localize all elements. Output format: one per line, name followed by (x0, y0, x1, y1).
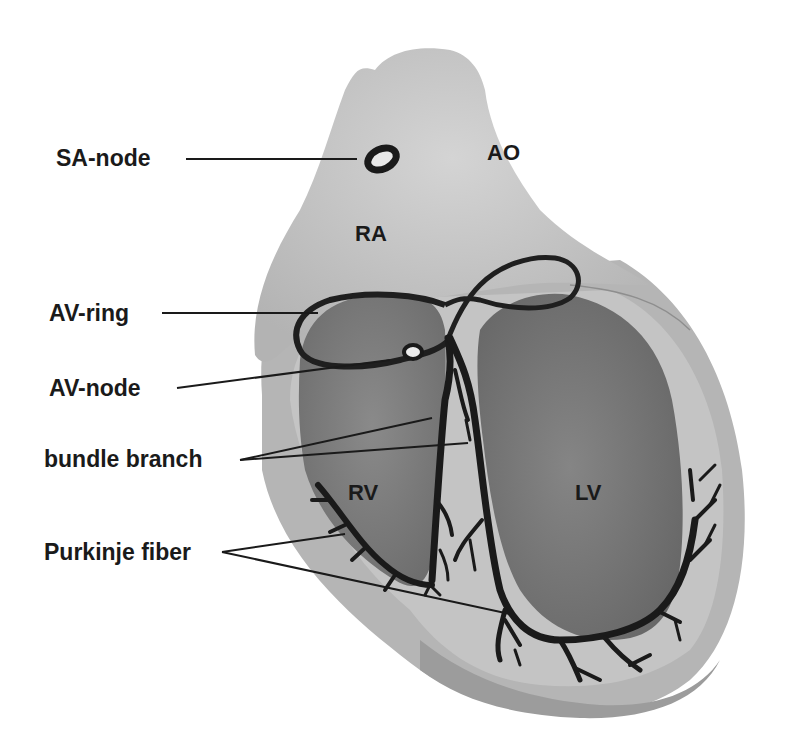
label-sa-node: SA-node (56, 147, 151, 170)
region-left-ventricle: LV (575, 482, 601, 504)
region-right-ventricle: RV (348, 482, 378, 504)
region-right-atrium: RA (355, 223, 387, 245)
label-av-ring: AV-ring (49, 302, 129, 325)
heart-conduction-diagram: SA-node AV-ring AV-node bundle branch Pu… (0, 0, 795, 753)
label-purkinje-fiber: Purkinje fiber (44, 541, 191, 564)
av-node-icon (404, 345, 422, 359)
label-bundle-branch: bundle branch (44, 448, 202, 471)
region-aorta: AO (487, 142, 520, 164)
label-av-node: AV-node (49, 377, 141, 400)
